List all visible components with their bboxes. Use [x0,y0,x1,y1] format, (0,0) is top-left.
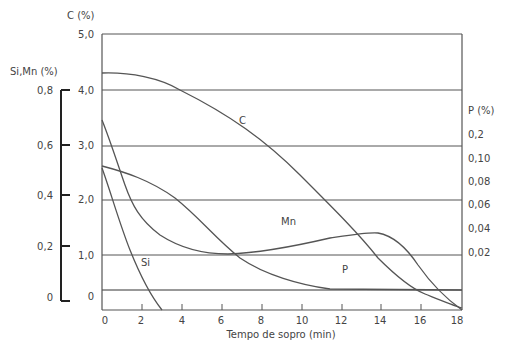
c-axis-ticks: 5,0 4,0 3,0 2,0 1,0 0 [78,29,94,302]
simn-tick: 0 [47,292,53,303]
x-tick: 8 [258,315,264,326]
c-tick: 4,0 [78,85,94,96]
x-tick: 0 [102,315,108,326]
x-tick: 4 [179,315,185,326]
curve-label-c: C [239,115,246,126]
p-tick: 0,2 [468,129,484,140]
plot-frame [102,34,462,310]
curve-p [102,166,462,290]
chart: C Mn Si P C (%) 5,0 4,0 3,0 2,0 1,0 0 Si… [0,0,506,347]
x-tick: 6 [218,315,224,326]
p-tick: 0,10 [468,153,490,164]
simn-axis-title: Si,Mn (%) [10,66,58,77]
simn-tick: 0,4 [37,190,53,201]
curve-c [102,73,462,308]
x-axis-ticks: 0 2 4 6 8 10 12 14 16 18 [102,315,464,326]
c-tick: 2,0 [78,194,94,205]
simn-tick: 0,6 [37,140,53,151]
curve-mn [102,120,462,310]
simn-tick: 0,2 [37,241,53,252]
simn-axis-ticks: 0,8 0,6 0,4 0,2 0 [37,85,53,303]
p-axis-title: P (%) [468,105,495,116]
x-ticks [142,304,421,310]
x-tick: 16 [414,315,427,326]
curve-label-si: Si [141,257,150,268]
c-tick: 5,0 [78,29,94,40]
simn-tick: 0,8 [37,85,53,96]
x-tick: 2 [138,315,144,326]
p-tick: 0,02 [468,247,490,258]
c-tick: 0 [88,291,94,302]
x-tick: 14 [374,315,387,326]
c-tick: 3,0 [78,140,94,151]
p-axis-ticks: 0,2 0,10 0,08 0,06 0,04 0,02 [468,129,490,258]
x-tick: 18 [451,315,464,326]
x-axis-title: Tempo de sopro (min) [225,329,335,340]
simn-axis [61,90,70,301]
c-tick: 1,0 [78,250,94,261]
p-tick: 0,08 [468,176,490,187]
c-axis-title: C (%) [67,10,95,21]
curve-label-mn: Mn [281,216,296,227]
x-tick: 12 [335,315,348,326]
curve-label-p: P [342,264,348,275]
p-tick: 0,04 [468,223,490,234]
curves [102,73,462,310]
x-tick: 10 [296,315,309,326]
p-tick: 0,06 [468,199,490,210]
curve-si [102,168,162,310]
